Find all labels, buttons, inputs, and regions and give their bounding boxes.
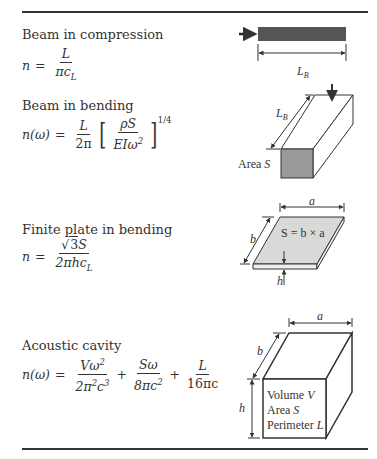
- perimeter-label: Perimeter L: [267, 418, 324, 432]
- beam-compression-figure: LB: [239, 27, 346, 80]
- label-a: a: [309, 194, 315, 208]
- label-b: b: [250, 232, 256, 246]
- label-h: h: [277, 274, 283, 288]
- cavity-figure: a b h Volume V Area S Perimeter L: [239, 309, 352, 438]
- area-label: Area S: [238, 157, 270, 171]
- label-b: b: [257, 344, 263, 358]
- label-a: a: [317, 309, 323, 323]
- length-label: LB: [275, 106, 288, 122]
- beam-bending-figure: LB Area S: [238, 84, 353, 178]
- plate-figure: a b S = b × a h: [240, 194, 344, 288]
- figures-canvas: LB LB Area S a b S = b × a h: [0, 0, 377, 459]
- label-h: h: [239, 401, 245, 415]
- volume-label: Volume V: [267, 388, 316, 402]
- cross-section-face: [281, 149, 313, 178]
- area-label: Area S: [267, 403, 299, 417]
- length-label: LB: [296, 64, 309, 80]
- compressed-bar: [258, 27, 346, 41]
- plate-area-label: S = b × a: [281, 226, 325, 240]
